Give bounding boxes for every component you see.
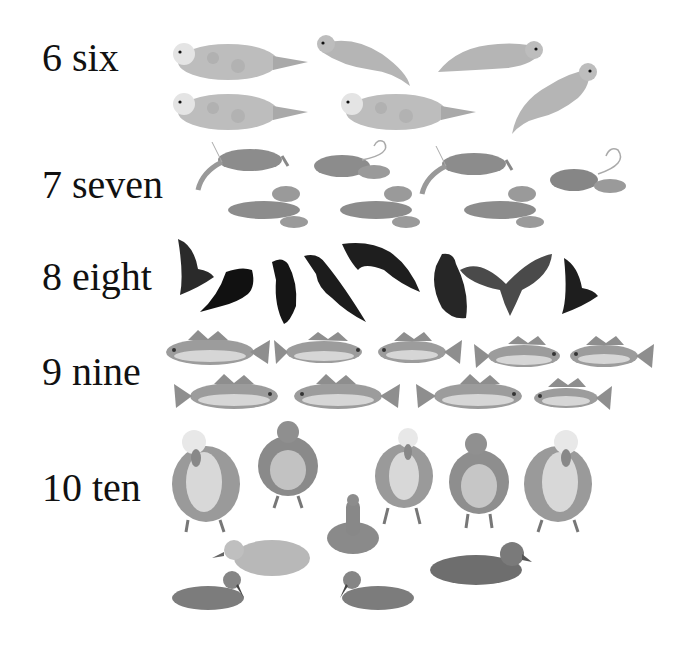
fish-illustration xyxy=(474,336,566,372)
seal-illustration xyxy=(168,40,310,82)
lobster-illustration xyxy=(224,182,310,228)
lobster-illustration xyxy=(312,140,392,182)
label-seven: 7 seven xyxy=(42,165,163,205)
duck-illustration xyxy=(334,570,416,610)
fish-illustration xyxy=(164,330,270,370)
label-ten: 10 ten xyxy=(42,468,141,508)
fish-illustration xyxy=(174,374,284,414)
fish-illustration xyxy=(568,336,654,372)
lobster-illustration xyxy=(460,182,546,228)
seal-illustration xyxy=(508,62,600,134)
duck-illustration xyxy=(448,432,510,528)
duck-illustration xyxy=(170,570,252,610)
seal-illustration xyxy=(312,34,414,86)
fish-illustration xyxy=(274,332,370,368)
crow-illustration xyxy=(556,256,600,316)
lobster-illustration xyxy=(336,182,422,228)
duck-illustration xyxy=(326,494,380,554)
lobster-illustration xyxy=(548,146,630,198)
fish-illustration xyxy=(532,378,612,412)
label-nine: 9 nine xyxy=(42,352,141,392)
fish-illustration xyxy=(376,332,462,366)
crow-illustration xyxy=(270,256,300,324)
seal-illustration xyxy=(336,90,478,132)
seal-illustration xyxy=(168,90,310,132)
crow-illustration xyxy=(198,266,256,314)
fish-illustration xyxy=(416,374,524,414)
fish-illustration xyxy=(292,374,400,414)
label-eight: 8 eight xyxy=(42,257,152,297)
crow-illustration xyxy=(340,240,422,296)
crow-illustration xyxy=(460,254,554,318)
duck-illustration xyxy=(428,540,532,586)
label-six: 6 six xyxy=(42,38,119,78)
duck-illustration xyxy=(518,424,596,536)
duck-illustration xyxy=(372,424,434,526)
duck-illustration xyxy=(256,420,320,508)
duck-illustration xyxy=(166,424,244,536)
